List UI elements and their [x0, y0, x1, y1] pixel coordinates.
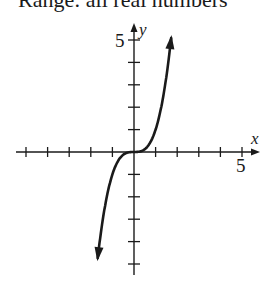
x-axis-label: x — [250, 129, 259, 148]
y-axis-arrow-icon — [131, 23, 138, 32]
x-axis-arrow-icon — [251, 149, 260, 156]
x-tick-label-5: 5 — [236, 155, 246, 176]
curve-arrow-up-icon — [165, 35, 174, 49]
y-tick-label-5: 5 — [115, 30, 125, 51]
curve-arrow-down-icon — [95, 247, 104, 261]
y-axis-label: y — [137, 20, 147, 39]
cubic-function-graph: x y 5 5 — [0, 0, 275, 287]
